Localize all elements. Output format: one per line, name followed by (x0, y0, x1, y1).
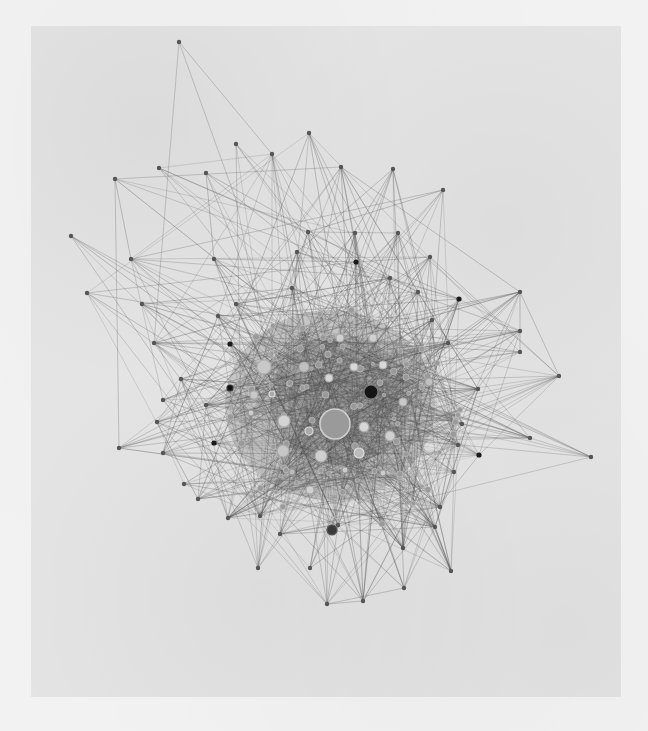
core-node (398, 349, 403, 354)
core-node (287, 490, 291, 494)
peripheral-node (456, 296, 461, 301)
core-node (237, 380, 243, 386)
core-node (340, 344, 345, 349)
peripheral-node (117, 446, 121, 450)
peripheral-node (290, 286, 294, 290)
core-node (304, 384, 309, 389)
core-node (437, 450, 441, 454)
core-node (357, 403, 363, 409)
core-node (455, 412, 460, 417)
hub-node-hub-center (320, 409, 350, 439)
peripheral-node (270, 152, 274, 156)
peripheral-node (446, 341, 450, 345)
core-node (273, 357, 277, 361)
peripheral-node (212, 257, 216, 261)
peripheral-node (161, 398, 165, 402)
core-node (310, 367, 314, 371)
peripheral-node (152, 341, 156, 345)
core-node (390, 368, 397, 375)
core-node (249, 495, 253, 499)
core-node (411, 501, 416, 506)
peripheral-node (557, 374, 561, 378)
core-node (327, 471, 332, 476)
hub-node-n-g (354, 448, 364, 458)
peripheral-node (336, 523, 340, 527)
core-node (372, 468, 377, 473)
hub-node-n-b (278, 415, 290, 427)
peripheral-node (179, 377, 183, 381)
hub-node-n-u (380, 470, 386, 476)
core-node (322, 392, 329, 399)
core-node (419, 385, 424, 390)
peripheral-node (449, 569, 453, 573)
peripheral-node (182, 482, 186, 486)
peripheral-node (441, 188, 445, 192)
peripheral-node (388, 276, 392, 280)
core-node (227, 414, 234, 421)
core-node (351, 403, 358, 410)
hub-node-n-s (227, 385, 233, 391)
peripheral-node (140, 302, 144, 306)
peripheral-node (85, 291, 89, 295)
core-node (404, 362, 410, 368)
hub-node-hub-dark (364, 385, 378, 399)
core-node (279, 474, 283, 478)
core-node (274, 490, 278, 494)
core-node (328, 338, 333, 343)
core-node (452, 419, 458, 425)
core-node (283, 467, 289, 473)
hub-node-n-p (399, 398, 407, 406)
hub-node-n-l (379, 361, 387, 369)
hub-node-n-x (342, 467, 348, 473)
core-node (403, 374, 409, 380)
core-node (315, 361, 322, 368)
core-node (337, 358, 342, 363)
peripheral-node (234, 302, 238, 306)
peripheral-node (226, 516, 230, 520)
peripheral-node (402, 586, 406, 590)
hub-node-n-a (257, 360, 271, 374)
core-node (320, 334, 326, 340)
hub-node-n-v (248, 410, 254, 416)
peripheral-node (433, 525, 437, 529)
hub-node-n-w (269, 391, 275, 397)
hub-node-n-i (325, 374, 333, 382)
peripheral-node (428, 255, 432, 259)
hub-node-n-h (305, 427, 313, 435)
core-node (382, 393, 386, 397)
peripheral-node (325, 602, 329, 606)
peripheral-node (258, 514, 262, 518)
hub-node-n-o (306, 486, 314, 494)
peripheral-node (204, 171, 208, 175)
core-node (320, 344, 325, 349)
core-node (295, 480, 299, 484)
peripheral-node (157, 166, 161, 170)
peripheral-node (155, 420, 159, 424)
peripheral-node (430, 318, 434, 322)
core-node (297, 345, 304, 352)
hub-node-n-d (315, 450, 327, 462)
core-node (421, 484, 425, 488)
peripheral-node (227, 341, 232, 346)
core-node (425, 487, 431, 493)
core-node (407, 391, 411, 395)
core-node (403, 452, 408, 457)
peripheral-node (295, 250, 299, 254)
peripheral-node (589, 455, 593, 459)
core-node (379, 521, 385, 527)
peripheral-node (518, 350, 522, 354)
core-node (280, 504, 286, 510)
network-graph (0, 0, 648, 731)
peripheral-node (308, 566, 312, 570)
peripheral-node (438, 505, 442, 509)
core-node (317, 311, 322, 316)
peripheral-node (518, 290, 522, 294)
peripheral-node (391, 167, 395, 171)
core-node (348, 307, 354, 313)
core-node (371, 362, 374, 365)
peripheral-node (113, 177, 117, 181)
peripheral-node (196, 497, 200, 501)
peripheral-node (353, 231, 357, 235)
peripheral-node (476, 452, 481, 457)
hub-node-n-r (327, 525, 337, 535)
